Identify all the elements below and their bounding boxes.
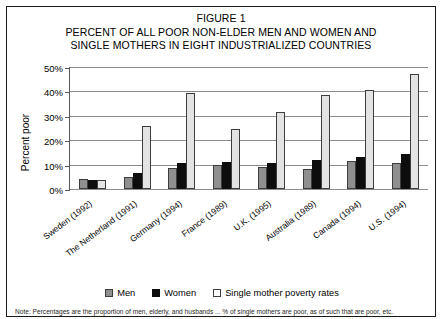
bar-group [249,67,294,189]
bar-group [70,67,115,189]
legend-label-men: Men [117,288,135,298]
figure-title-line-1: PERCENT OF ALL POOR NON-ELDER MEN AND WO… [7,26,435,40]
legend-label-single: Single mother poverty rates [225,288,339,298]
legend-item-single: Single mother poverty rates [213,288,339,298]
y-tick-label: 10% [44,160,63,171]
bar-single [276,112,285,189]
bar-men [79,179,88,189]
x-axis-labels: Sweden (1992)The Netherland (1991)German… [69,198,427,260]
y-tick-label: 20% [44,136,63,147]
chart-legend: MenWomenSingle mother poverty rates [7,288,436,298]
y-tick-label: 50% [44,63,63,74]
y-tick-label: 0% [49,185,63,196]
x-label-cell: U.S. (1994) [382,198,427,260]
legend-swatch-men [105,289,113,297]
legend-swatch-single [213,289,221,297]
bar-single [410,74,419,189]
figure-frame: FIGURE 1 PERCENT OF ALL POOR NON-ELDER M… [6,6,436,317]
bar-single [142,126,151,189]
y-tick-label: 40% [44,87,63,98]
bar-single [231,129,240,189]
bar-single [186,93,195,189]
plot-wrapper: Percent poor 0%10%20%30%40%50% Sweden (1… [7,59,435,259]
legend-label-women: Women [164,288,196,298]
bar-single [321,95,330,189]
bar-women [88,180,97,189]
bar-single [365,90,374,189]
figure-title-block: FIGURE 1 PERCENT OF ALL POOR NON-ELDER M… [7,7,435,53]
legend-item-men: Men [105,288,135,298]
y-tick-mark [65,190,70,191]
figure-note: Note: Percentages are the proportion of … [15,308,433,316]
plot-area: 0%10%20%30%40%50% [69,67,428,190]
y-axis-label: Percent poor [20,83,31,203]
bars-group [70,67,428,189]
figure-title-line-2: SINGLE MOTHERS IN EIGHT INDUSTRIALIZED C… [7,39,435,53]
y-tick-label: 30% [44,111,63,122]
legend-swatch-women [152,289,160,297]
legend-item-women: Women [152,288,196,298]
bar-group [294,67,339,189]
figure-number: FIGURE 1 [7,12,435,26]
bar-women [312,160,321,189]
